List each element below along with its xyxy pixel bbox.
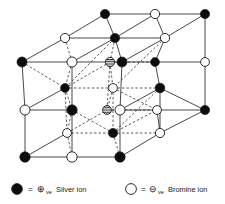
lattice-bond [25,133,67,157]
lattice-diagram: = ⊕ ve Silver ion = ⊖ ve Bromine ion [0,0,225,204]
lattice-ion-bromine [115,105,125,115]
legend-silver-label: Silver ion [56,185,86,194]
lattice-ion-bromine [67,57,77,67]
legend-bromine-label: Bromine ion [168,185,207,194]
lattice-ion-silver [100,9,109,18]
lattice-bond [165,14,205,38]
legend-bromine-charge-suffix: ve [158,189,164,195]
lattice-ion-bromine [155,128,164,137]
lattice-ion-silver [115,152,125,162]
lattice-bond [25,88,65,110]
lattice-ion-silver [151,58,160,67]
legend: = ⊕ ve Silver ion = ⊖ ve Bromine ion [12,184,208,195]
lattice-bond-dashed [22,62,65,88]
lattice-bond [122,38,165,62]
lattice-ion-bromine [20,105,30,115]
minus-circle-icon: ⊖ [149,184,157,194]
plus-circle-icon: ⊕ [37,184,45,194]
lattice-ion-nodes [17,9,210,162]
lattice-ion-silver [20,152,30,162]
lattice-ion-bromine [201,58,210,67]
lattice-ion-silver [67,105,77,115]
lattice-bond [160,88,205,110]
lattice-ion-silver [200,105,209,114]
lattice-ion-silver [108,128,117,137]
lattice-bond [160,110,205,133]
lattice-ion-silver [200,9,209,18]
legend-bromine-equals: = [141,185,146,194]
lattice-ion-interstitial [104,57,115,66]
lattice-ion-bromine [160,33,169,42]
lattice-ion-silver [117,57,127,67]
lattice-figure: = ⊕ ve Silver ion = ⊖ ve Bromine ion [0,0,225,204]
lattice-bond [120,133,160,157]
lattice-ion-silver [155,83,165,93]
lattice-ion-bromine [153,106,162,115]
lattice-ion-silver [17,57,27,67]
lattice-ion-silver [110,33,119,42]
lattice-ion-bromine [67,152,77,162]
lattice-bond [65,14,105,38]
lattice-ion-bromine [150,9,159,18]
legend-silver-equals: = [28,185,33,194]
legend-silver-ion-marker [12,184,23,195]
lattice-bond [120,62,122,110]
lattice-ion-silver [61,84,70,93]
lattice-ion-bromine [63,129,72,138]
legend-bromine-ion-marker [126,184,137,195]
lattice-bond [115,14,155,38]
lattice-bond [22,38,65,62]
lattice-ion-bromine [60,33,69,42]
legend-silver-charge-suffix: ve [46,189,52,195]
lattice-ion-interstitial [102,106,113,115]
lattice-ion-bromine [109,84,118,93]
lattice-bond [22,62,25,110]
